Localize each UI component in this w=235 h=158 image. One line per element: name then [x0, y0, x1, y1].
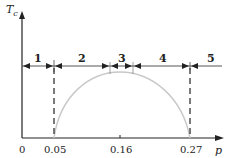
arrow-left-icon [111, 63, 118, 69]
tick-label-0.05: 0.05 [44, 144, 66, 155]
arrow-left-icon [191, 63, 198, 69]
region-label-4: 4 [159, 52, 167, 65]
y-axis-arrow-icon [19, 11, 25, 19]
arrow-right-icon [182, 63, 189, 69]
arrow-right-icon [102, 63, 109, 69]
arrow-left-icon [134, 63, 141, 69]
tick-label-0.27: 0.27 [180, 144, 202, 155]
y-axis-label: Tc [6, 3, 18, 18]
arrow-left-icon [55, 63, 62, 69]
arrow-left-icon [23, 63, 30, 69]
region-label-1: 1 [34, 52, 42, 65]
region-label-2: 2 [78, 52, 86, 65]
arrow-right-icon [46, 63, 53, 69]
y-axis [19, 11, 25, 138]
phase-diagram: Tc p 0 0.05 0.16 0.27 1 2 [0, 0, 235, 158]
x-axis [22, 135, 224, 141]
x-axis-label: p [215, 144, 222, 157]
region-label-3: 3 [118, 52, 126, 65]
critical-temperature-dome [54, 72, 190, 138]
tick-label-0: 0 [19, 144, 25, 155]
arrow-right-icon [125, 63, 132, 69]
region-label-5: 5 [207, 52, 215, 65]
tick-label-0.16: 0.16 [110, 144, 132, 155]
x-axis-arrow-icon [215, 135, 224, 141]
